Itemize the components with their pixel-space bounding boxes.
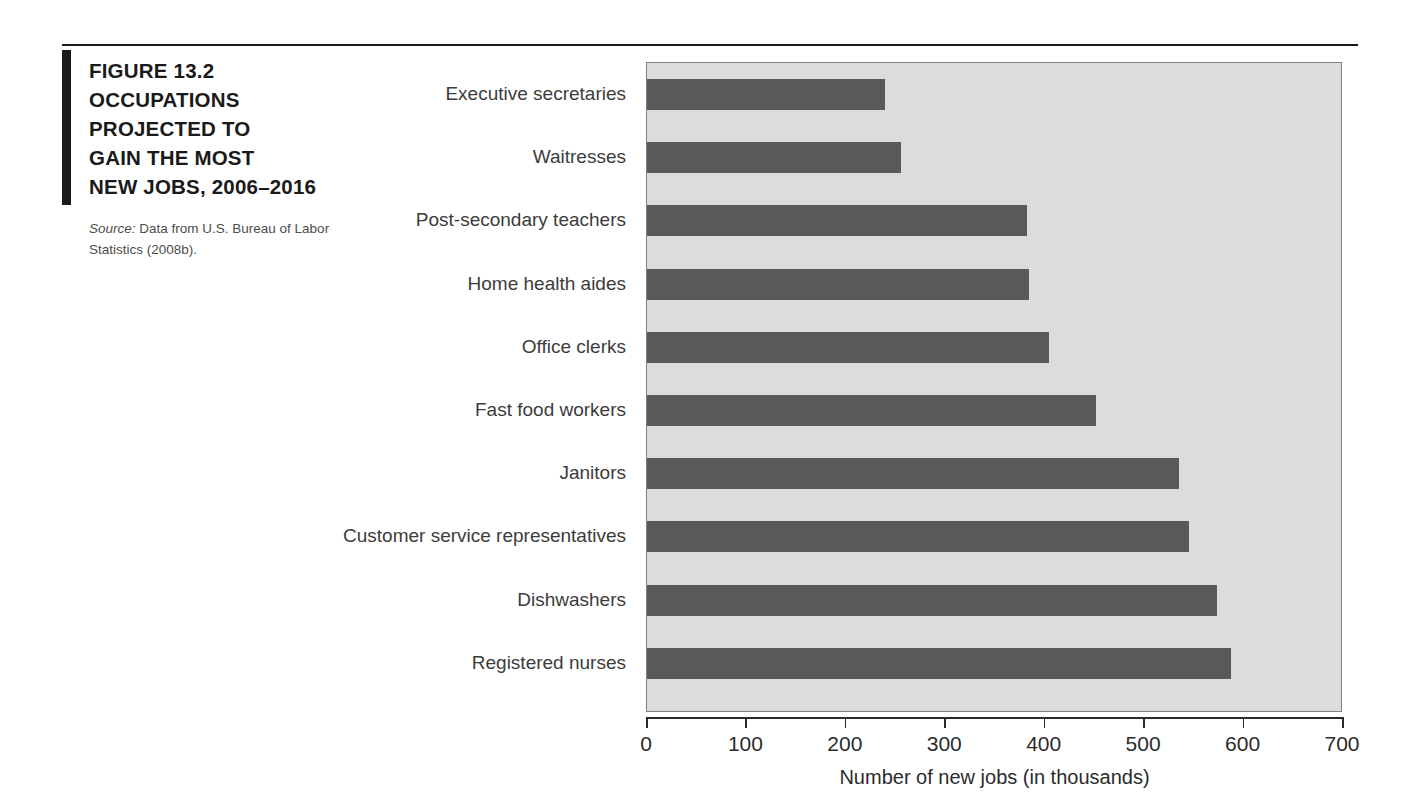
plot-area: [646, 62, 1342, 712]
x-tick-mark: [745, 717, 747, 728]
x-tick-mark: [845, 717, 847, 728]
category-label: Executive secretaries: [6, 78, 626, 109]
bar-row: [647, 585, 1343, 616]
bar: [647, 142, 901, 173]
x-tick-mark: [1342, 717, 1344, 728]
bar: [647, 585, 1217, 616]
x-tick-mark: [646, 717, 648, 728]
x-tick-label: 700: [1324, 732, 1359, 756]
bar: [647, 205, 1027, 236]
bar-row: [647, 79, 1343, 110]
x-tick-mark: [1143, 717, 1145, 728]
bar-chart: Executive secretariesWaitressesPost-seco…: [0, 0, 1416, 804]
category-label: Customer service representatives: [6, 520, 626, 551]
bar: [647, 79, 885, 110]
x-axis-title: Number of new jobs (in thousands): [646, 766, 1343, 789]
bar-row: [647, 205, 1343, 236]
x-tick-label: 600: [1225, 732, 1260, 756]
x-tick-label: 300: [927, 732, 962, 756]
x-tick-label: 400: [1026, 732, 1061, 756]
bar-row: [647, 332, 1343, 363]
x-tick-label: 0: [640, 732, 652, 756]
bar-row: [647, 648, 1343, 679]
bar: [647, 521, 1189, 552]
bar: [647, 648, 1231, 679]
x-axis-line: [646, 717, 1343, 719]
x-tick-label: 100: [728, 732, 763, 756]
bar-row: [647, 458, 1343, 489]
category-label: Office clerks: [6, 331, 626, 362]
bar: [647, 395, 1096, 426]
category-label: Dishwashers: [6, 584, 626, 615]
bar-row: [647, 269, 1343, 300]
bar-row: [647, 142, 1343, 173]
bar: [647, 458, 1179, 489]
category-label: Waitresses: [6, 141, 626, 172]
category-label: Post-secondary teachers: [6, 204, 626, 235]
x-tick-mark: [1243, 717, 1245, 728]
bar: [647, 269, 1029, 300]
x-tick-mark: [1044, 717, 1046, 728]
x-tick-label: 500: [1126, 732, 1161, 756]
x-tick-mark: [944, 717, 946, 728]
category-label: Home health aides: [6, 268, 626, 299]
bar-row: [647, 521, 1343, 552]
category-axis-labels: Executive secretariesWaitressesPost-seco…: [0, 62, 636, 712]
category-label: Janitors: [6, 457, 626, 488]
bar: [647, 332, 1049, 363]
category-label: Fast food workers: [6, 394, 626, 425]
x-tick-label: 200: [827, 732, 862, 756]
category-label: Registered nurses: [6, 647, 626, 678]
bar-row: [647, 395, 1343, 426]
